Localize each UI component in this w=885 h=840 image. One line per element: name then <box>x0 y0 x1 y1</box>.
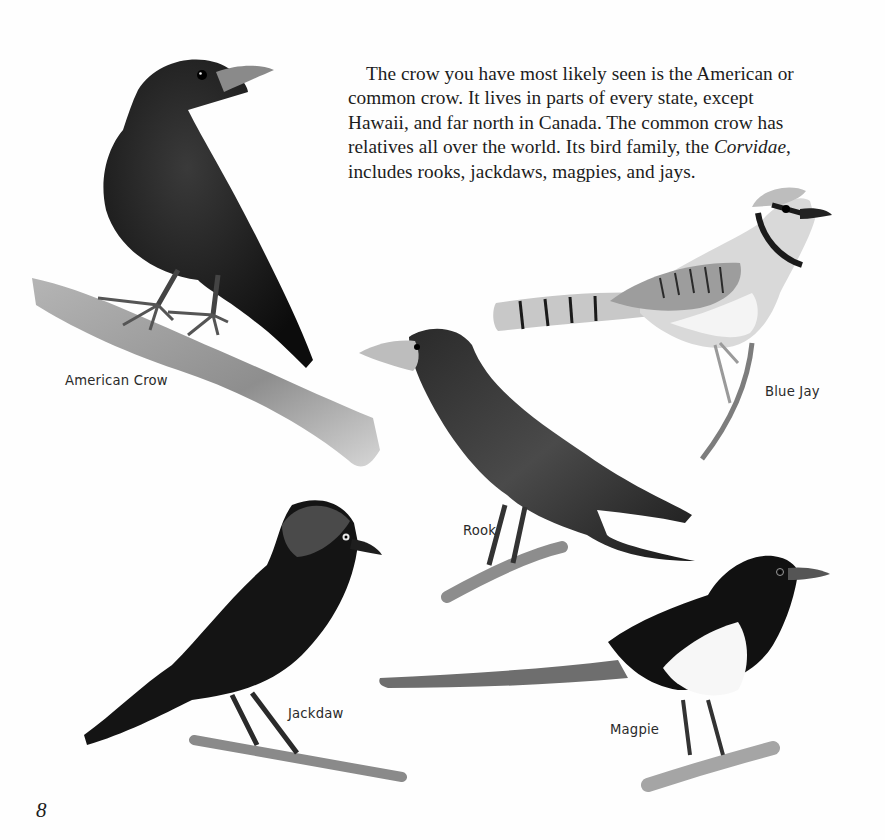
caption-rook: Rook <box>463 523 496 538</box>
body-text-italic-family: Corvidae <box>714 136 786 157</box>
caption-blue-jay: Blue Jay <box>765 384 820 399</box>
crow-illustration-icon <box>28 50 388 480</box>
caption-magpie: Magpie <box>610 722 659 737</box>
caption-jackdaw: Jackdaw <box>288 706 344 721</box>
magpie-illustration-icon <box>378 550 833 800</box>
jackdaw-illustration-icon <box>82 495 412 790</box>
page-number: 8 <box>36 798 47 823</box>
caption-american-crow: American Crow <box>65 373 168 388</box>
body-paragraph: The crow you have most likely seen is th… <box>348 62 818 184</box>
book-page: The crow you have most likely seen is th… <box>0 0 885 840</box>
